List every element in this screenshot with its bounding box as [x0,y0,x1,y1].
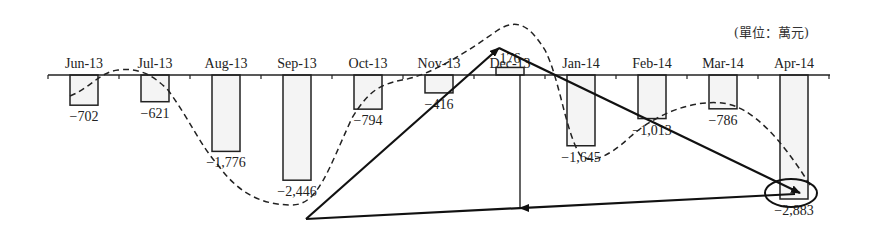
x-label-sep-13: Sep-13 [277,56,317,71]
baseline-sep-to-apr [306,194,795,219]
bar-oct-13 [354,75,382,109]
x-axis-labels: Jun-13Jul-13Aug-13Sep-13Oct-13Nov-13Dec-… [65,56,814,71]
x-label-feb-14: Feb-14 [632,56,672,71]
x-label-aug-13: Aug-13 [205,56,248,71]
arrow-sep-to-dec [306,48,499,219]
x-label-apr-14: Apr-14 [774,56,814,71]
value-label-mar-14: −786 [709,113,738,128]
x-label-jun-13: Jun-13 [65,56,103,71]
value-label-oct-13: −794 [354,113,383,128]
cash-flow-bar-chart: Jun-13Jul-13Aug-13Sep-13Oct-13Nov-13Dec-… [0,0,875,247]
x-label-mar-14: Mar-14 [702,56,744,71]
bar-aug-13 [212,75,240,151]
bar-sep-13 [283,75,311,180]
bar-nov-13 [425,75,453,93]
value-label-jul-13: −621 [141,106,170,121]
value-label-jun-13: −702 [70,109,99,124]
x-label-oct-13: Oct-13 [349,56,388,71]
unit-label: (單位：萬元) [734,22,809,41]
value-label-jan-14: −1,645 [561,150,600,165]
dashed-trend-curve [70,24,810,205]
bar-feb-14 [638,75,666,119]
bar-jun-13 [70,75,98,105]
x-label-jul-13: Jul-13 [138,56,173,71]
x-label-jan-14: Jan-14 [562,56,599,71]
bars-group [70,67,808,199]
